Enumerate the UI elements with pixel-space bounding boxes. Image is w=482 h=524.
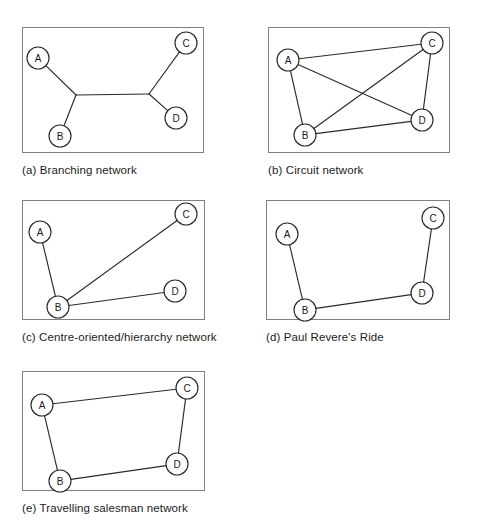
node-label-b: B (57, 476, 64, 487)
graph-node-c[interactable]: C (176, 377, 198, 399)
edge-A-C (53, 389, 176, 403)
node-group-e: ABCD (31, 377, 198, 492)
edge-B-A (45, 416, 58, 471)
network-types-figure: ABCD(a) Branching networkABCD(b) Circuit… (0, 0, 482, 524)
node-label-c: C (183, 383, 190, 394)
node-label-d: D (173, 459, 180, 470)
edge-C-D (178, 399, 185, 453)
graph-node-a[interactable]: A (31, 394, 53, 416)
node-label-a: A (39, 400, 46, 411)
graph-canvas-e: ABCD (0, 0, 482, 524)
edge-group-e (45, 389, 186, 479)
graph-node-b[interactable]: B (49, 470, 71, 492)
edge-D-B (71, 466, 166, 480)
graph-node-d[interactable]: D (166, 453, 188, 475)
network-panel-e: ABCD(e) Travelling salesman network (0, 0, 482, 524)
panel-caption-e: (e) Travelling salesman network (22, 501, 188, 515)
